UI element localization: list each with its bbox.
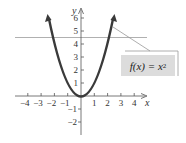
svg-text:3: 3 (74, 52, 79, 62)
function-exponent: 2 (163, 62, 167, 70)
svg-text:−4: −4 (20, 98, 30, 108)
svg-text:−2: −2 (67, 117, 77, 127)
svg-text:3: 3 (119, 98, 124, 108)
function-label: f(x) = x (130, 60, 163, 72)
x-axis-label: x (144, 97, 150, 108)
svg-text:−2: −2 (47, 98, 57, 108)
svg-text:5: 5 (74, 26, 79, 36)
y-axis-label: y (71, 5, 77, 16)
function-label-box: f(x) = x2 (121, 55, 175, 76)
svg-text:1: 1 (74, 78, 79, 88)
callout-leader (113, 27, 150, 51)
svg-text:1: 1 (92, 98, 97, 108)
svg-text:−3: −3 (33, 98, 43, 108)
x-tick-labels: −4 −3 −2 −1 1 2 3 4 (20, 98, 137, 108)
svg-text:−1: −1 (67, 104, 77, 114)
svg-text:2: 2 (74, 65, 79, 75)
svg-text:4: 4 (132, 98, 137, 108)
svg-text:2: 2 (105, 98, 110, 108)
y-tick-labels: 6 5 4 3 2 1 −1 −2 (67, 13, 78, 127)
svg-text:4: 4 (74, 39, 79, 49)
